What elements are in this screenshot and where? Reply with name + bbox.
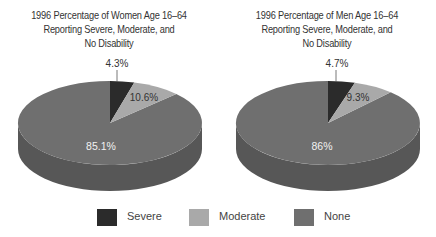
label-moderate: 10.6% (130, 92, 158, 103)
label-none: 86% (311, 140, 332, 152)
pie-men: 4.7% 9.3% 86% (236, 58, 420, 191)
label-none: 85.1% (86, 140, 116, 152)
legend-swatch-severe (97, 209, 117, 226)
legend-label: Moderate (219, 210, 265, 222)
label-severe: 4.7% (326, 58, 349, 69)
legend-swatch-moderate (189, 209, 209, 226)
legend-label: Severe (127, 210, 162, 222)
legend-swatch-none (294, 209, 314, 226)
pie-charts: 4.3% 10.6% 85.1% 4.7% 9.3% 86% (0, 0, 436, 237)
legend: Severe Moderate None (0, 209, 436, 227)
legend-label: None (324, 210, 350, 222)
slice-none (236, 81, 420, 165)
label-severe: 4.3% (106, 58, 129, 69)
label-moderate: 9.3% (347, 92, 370, 103)
pie-women: 4.3% 10.6% 85.1% (18, 58, 202, 191)
